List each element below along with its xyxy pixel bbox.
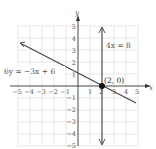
line2-label: 4x = 8 [106, 41, 131, 50]
point-label: (2, 0) [104, 76, 124, 85]
y-tick: −2 [66, 106, 76, 114]
x-tick: −3 [36, 88, 46, 96]
x-tick: −5 [12, 88, 22, 96]
y-tick: −3 [66, 118, 76, 126]
x-tick: −2 [48, 88, 58, 96]
y-tick: 3 [72, 47, 76, 55]
y-tick: 2 [72, 59, 76, 67]
y-tick: −1 [66, 94, 76, 102]
y-tick: −4 [66, 130, 76, 138]
y-axis-label: y [74, 9, 80, 17]
x-axis-label: x [149, 84, 153, 92]
x-tick: 5 [135, 88, 139, 96]
y-axis [76, 15, 80, 146]
line1-label: 6y = −3x + 6 [4, 67, 55, 76]
x-tick: 1 [88, 88, 92, 96]
coordinate-graph: x y −5 −4 −3 −2 −1 1 2 3 4 5 5 4 3 2 1 −… [0, 0, 156, 149]
y-tick: 4 [72, 35, 76, 43]
x-tick: 4 [124, 88, 128, 96]
y-tick: −5 [66, 142, 76, 149]
y-tick: 5 [72, 23, 76, 31]
x-tick: −4 [24, 88, 34, 96]
